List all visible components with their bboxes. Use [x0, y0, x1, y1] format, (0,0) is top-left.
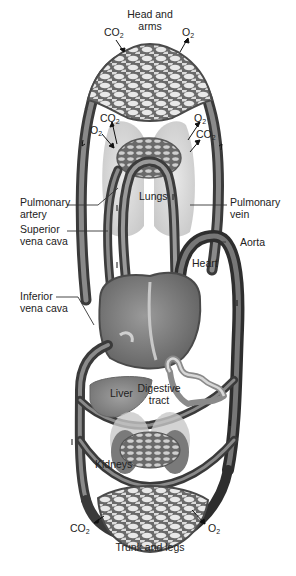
label-pulmonary-artery: Pulmonary artery	[20, 196, 70, 220]
label-inferior-vena-cava-line1: Inferior	[20, 290, 68, 302]
label-inferior-vena-cava-line2: vena cava	[20, 302, 68, 314]
label-pulmonary-vein: Pulmonary vein	[230, 196, 280, 220]
label-trunk-legs: Trunk and legs	[105, 541, 195, 553]
circulatory-diagram: Head and arms CO2 O2 CO2 O2 O2 CO2 Lungs…	[0, 0, 296, 576]
label-co2-lungs-right: CO2	[196, 128, 216, 144]
label-digestive-tract: Digestive tract	[134, 382, 184, 406]
label-lungs: Lungs	[139, 190, 168, 202]
label-superior-vena-cava-line1: Superior	[20, 223, 68, 235]
label-liver: Liver	[110, 387, 133, 399]
label-head-arms: Head and arms	[125, 8, 175, 32]
label-co2-trunk: CO2	[70, 522, 90, 538]
label-aorta: Aorta	[240, 236, 265, 248]
label-superior-vena-cava: Superior vena cava	[20, 223, 68, 247]
circulation-artwork	[0, 0, 296, 576]
label-co2-lungs: CO2	[100, 112, 120, 128]
label-o2-lungs: O2	[90, 124, 102, 140]
label-heart: Heart	[192, 257, 218, 269]
label-o2-lungs-right: O2	[194, 112, 206, 128]
label-pulmonary-vein-line1: Pulmonary	[230, 196, 280, 208]
label-kidneys: Kidneys	[95, 458, 132, 470]
label-o2-head: O2	[182, 26, 194, 42]
label-o2-trunk: O2	[208, 522, 220, 538]
label-inferior-vena-cava: Inferior vena cava	[20, 290, 68, 314]
label-digestive-tract-line2: tract	[134, 394, 184, 406]
label-co2-head: CO2	[104, 26, 124, 42]
label-pulmonary-vein-line2: vein	[230, 208, 280, 220]
label-pulmonary-artery-line2: artery	[20, 208, 70, 220]
label-head-arms-line1: Head and	[125, 8, 175, 20]
heart	[99, 273, 200, 368]
label-pulmonary-artery-line1: Pulmonary	[20, 196, 70, 208]
head-arms-capillary-bed	[88, 44, 212, 121]
label-digestive-tract-line1: Digestive	[134, 382, 184, 394]
label-superior-vena-cava-line2: vena cava	[20, 235, 68, 247]
label-head-arms-line2: arms	[125, 20, 175, 32]
